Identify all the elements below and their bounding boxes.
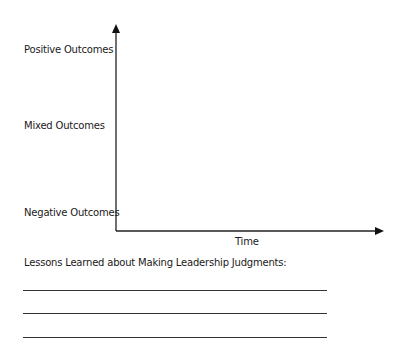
y-axis-arrow bbox=[112, 24, 120, 231]
blank-write-line[interactable] bbox=[23, 337, 327, 338]
blank-write-line[interactable] bbox=[23, 290, 327, 291]
lessons-heading: Lessons Learned about Making Leadership … bbox=[24, 257, 287, 269]
x-label-time: Time bbox=[235, 236, 259, 248]
blank-write-line[interactable] bbox=[23, 313, 327, 314]
x-axis-arrow bbox=[116, 227, 384, 235]
